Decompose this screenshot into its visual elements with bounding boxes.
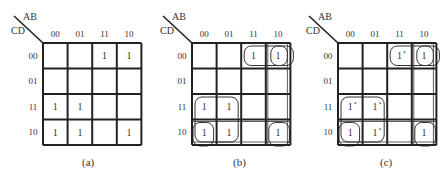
col-header: 01 (75, 29, 84, 39)
col-header: 01 (370, 29, 379, 39)
cell-value: 1 (348, 127, 353, 138)
caption-a: (a) (82, 156, 94, 168)
cell-value: 1 (127, 50, 132, 61)
row-header: 10 (29, 127, 39, 137)
kmap-a: ABCD00011110000111101111111 (0, 0, 150, 181)
cell-value: 1 (422, 50, 427, 61)
row-header: 00 (324, 51, 334, 61)
star-mark: * (354, 101, 357, 107)
cell-value: 1 (372, 101, 377, 112)
col-header: 10 (125, 29, 135, 39)
cell-value: 1 (53, 101, 58, 112)
row-header: 00 (178, 51, 188, 61)
cell-value: 1 (348, 101, 353, 112)
cell-value: 1 (226, 127, 231, 138)
row-axis-label: CD (11, 25, 25, 36)
cell-value: 1 (276, 127, 281, 138)
col-header: 10 (420, 29, 430, 39)
col-header: 11 (395, 29, 404, 39)
cell-value: 1 (202, 127, 207, 138)
caption-c: (c) (380, 156, 392, 168)
row-header: 00 (29, 51, 39, 61)
row-header: 11 (178, 102, 187, 112)
kmap-b-svg: ABCD00011110000111101111111 (149, 0, 299, 181)
star-mark: * (378, 127, 381, 133)
star-mark: * (378, 101, 381, 107)
cell-value: 1 (422, 127, 427, 138)
col-header: 00 (51, 29, 61, 39)
cell-value: 1 (226, 101, 231, 112)
cell-value: 1 (102, 50, 107, 61)
cell-value: 1 (202, 101, 207, 112)
row-header: 10 (324, 127, 334, 137)
cell-value: 1 (276, 50, 281, 61)
row-header: 01 (29, 76, 38, 86)
cell-value: 1 (77, 127, 82, 138)
col-header: 00 (346, 29, 356, 39)
star-mark: * (403, 50, 406, 56)
col-axis-label: AB (172, 11, 186, 22)
cell-value: 1 (372, 127, 377, 138)
col-header: 10 (274, 29, 284, 39)
cell-value: 1 (397, 50, 402, 61)
kmap-c: ABCD00011110000111101*11*1*11*1 (295, 0, 445, 181)
cell-value: 1 (77, 101, 82, 112)
kmap-a-svg: ABCD00011110000111101111111 (0, 0, 150, 181)
kmap-c-svg: ABCD00011110000111101*11*1*11*1 (295, 0, 445, 181)
cell-value: 1 (127, 127, 132, 138)
cell-value: 1 (53, 127, 58, 138)
row-axis-label: CD (160, 25, 174, 36)
caption-b: (b) (233, 156, 246, 168)
cell-value: 1 (251, 50, 256, 61)
col-header: 01 (224, 29, 233, 39)
row-header: 10 (178, 127, 188, 137)
row-header: 11 (29, 102, 38, 112)
row-axis-label: CD (306, 25, 320, 36)
row-header: 11 (324, 102, 333, 112)
col-header: 00 (200, 29, 210, 39)
row-header: 01 (178, 76, 187, 86)
col-header: 11 (249, 29, 258, 39)
col-axis-label: AB (23, 11, 37, 22)
row-header: 01 (324, 76, 333, 86)
col-axis-label: AB (318, 11, 332, 22)
col-header: 11 (100, 29, 109, 39)
kmap-b: ABCD00011110000111101111111 (149, 0, 299, 181)
